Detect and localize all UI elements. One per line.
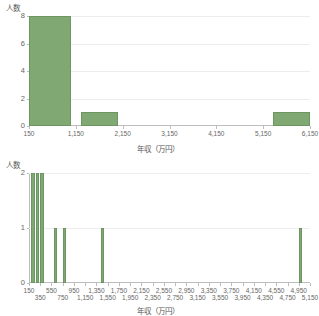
x-tick-label: 6,150 xyxy=(302,130,318,137)
gridline xyxy=(29,71,310,72)
x-tick-mark xyxy=(40,283,41,286)
x-tick-label: 1,150 xyxy=(77,294,93,301)
x-tick-label: 3,150 xyxy=(189,294,205,301)
gridline xyxy=(29,16,310,17)
y-tick-label: 8 xyxy=(21,12,25,20)
gridline xyxy=(29,99,310,100)
x-tick-mark xyxy=(220,283,221,286)
plot-area-bottom: 012 xyxy=(29,173,310,283)
y-tick-label: 0 xyxy=(21,279,25,287)
x-tick-mark xyxy=(96,283,97,286)
plot-area-top: 02468 xyxy=(29,16,310,126)
x-tick-label: 1,150 xyxy=(68,130,84,137)
x-tick-mark xyxy=(310,126,311,129)
x-tick-mark xyxy=(29,283,30,286)
x-tick-label: 2,150 xyxy=(115,130,131,137)
x-tick-label: 5,150 xyxy=(255,130,271,137)
histogram-bar xyxy=(273,112,310,126)
x-tick-label: 3,350 xyxy=(201,287,217,294)
x-tick-label: 150 xyxy=(24,130,35,137)
x-tick-label: 3,550 xyxy=(212,294,228,301)
gridline xyxy=(29,44,310,45)
x-tick-label: 2,750 xyxy=(167,294,183,301)
x-tick-mark xyxy=(276,283,277,286)
y-tick-label: 1 xyxy=(21,224,25,232)
x-tick-mark xyxy=(170,126,171,129)
x-tick-mark xyxy=(198,283,199,286)
x-tick-label: 4,150 xyxy=(208,130,224,137)
x-tick-label: 150 xyxy=(24,287,35,294)
histogram-bar xyxy=(101,228,104,283)
x-tick-mark xyxy=(209,283,210,286)
y-tick-label: 6 xyxy=(21,40,25,48)
histogram-bar xyxy=(40,173,43,283)
x-tick-label: 3,750 xyxy=(223,287,239,294)
histogram-bar xyxy=(31,173,34,283)
y-tick-label: 4 xyxy=(21,67,25,75)
gridline xyxy=(29,173,310,174)
x-tick-label: 1,950 xyxy=(122,294,138,301)
x-tick-mark xyxy=(299,283,300,286)
x-tick-label: 4,950 xyxy=(291,287,307,294)
x-tick-mark xyxy=(74,283,75,286)
histogram-bar xyxy=(36,173,39,283)
x-tick-mark xyxy=(216,126,217,129)
x-tick-label: 2,350 xyxy=(144,294,160,301)
x-tick-mark xyxy=(254,283,255,286)
income-histogram-wide-bins: 人数 02468 1501,1502,1503,1504,1505,1506,1… xyxy=(0,0,316,157)
x-tick-mark xyxy=(130,283,131,286)
x-tick-mark xyxy=(186,283,187,286)
y-tick-label: 2 xyxy=(21,169,25,177)
histogram-bar xyxy=(29,16,71,126)
x-axis-title-top: 年収（万円） xyxy=(0,143,316,154)
x-tick-label: 550 xyxy=(46,287,57,294)
x-axis-line-bottom xyxy=(29,282,310,283)
x-tick-mark xyxy=(310,283,311,286)
x-tick-mark xyxy=(288,283,289,286)
x-tick-label: 1,350 xyxy=(88,287,104,294)
x-tick-label: 1,550 xyxy=(100,294,116,301)
histogram-bar xyxy=(299,228,302,283)
histogram-bar xyxy=(54,228,57,283)
y-tick-label: 0 xyxy=(21,122,25,130)
x-tick-label: 2,950 xyxy=(178,287,194,294)
x-tick-mark xyxy=(231,283,232,286)
x-tick-mark xyxy=(243,283,244,286)
x-tick-label: 4,750 xyxy=(279,294,295,301)
histogram-bar xyxy=(63,228,66,283)
histogram-bar xyxy=(81,112,118,126)
x-tick-label: 750 xyxy=(57,294,68,301)
x-tick-mark xyxy=(76,126,77,129)
x-tick-mark xyxy=(164,283,165,286)
x-tick-mark xyxy=(153,283,154,286)
x-tick-label: 2,150 xyxy=(133,287,149,294)
x-tick-mark xyxy=(175,283,176,286)
y-tick-label: 2 xyxy=(21,95,25,103)
gridline xyxy=(29,228,310,229)
x-tick-mark xyxy=(29,126,30,129)
x-tick-label: 4,350 xyxy=(257,294,273,301)
x-tick-mark xyxy=(51,283,52,286)
x-axis-title-bottom: 年収（万円） xyxy=(0,305,316,316)
y-tick-mark xyxy=(27,228,29,229)
x-tick-mark xyxy=(141,283,142,286)
x-tick-mark xyxy=(119,283,120,286)
x-tick-label: 3,150 xyxy=(161,130,177,137)
x-tick-label: 3,950 xyxy=(234,294,250,301)
y-tick-mark xyxy=(27,173,29,174)
x-tick-mark xyxy=(108,283,109,286)
x-tick-mark xyxy=(85,283,86,286)
x-tick-label: 2,550 xyxy=(156,287,172,294)
x-tick-label: 1,750 xyxy=(111,287,127,294)
x-tick-label: 950 xyxy=(69,287,80,294)
y-axis-title-bottom: 人数 xyxy=(6,159,20,170)
x-tick-mark xyxy=(123,126,124,129)
x-tick-label: 4,550 xyxy=(268,287,284,294)
x-tick-mark xyxy=(263,126,264,129)
x-tick-label: 350 xyxy=(35,294,46,301)
x-tick-label: 5,150 xyxy=(302,294,318,301)
income-histogram-narrow-bins: 人数 012 1503505507509501,1501,3501,5501,7… xyxy=(0,157,316,313)
x-tick-label: 4,150 xyxy=(246,287,262,294)
y-axis-title-top: 人数 xyxy=(6,2,20,13)
x-tick-mark xyxy=(265,283,266,286)
